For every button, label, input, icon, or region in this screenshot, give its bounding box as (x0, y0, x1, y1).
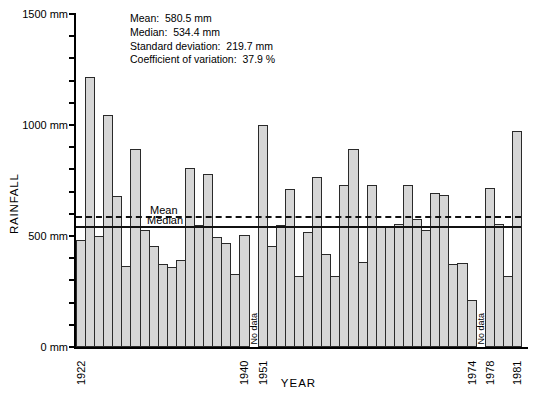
y-axis-tick-label: 0 mm (6, 341, 68, 353)
y-axis-tick (69, 302, 74, 304)
x-axis-label-1951: 1951 (257, 351, 269, 385)
y-axis-tick (69, 80, 74, 82)
no-data-label: No data (249, 313, 259, 345)
y-axis-tick-label: 1500 mm (6, 8, 68, 20)
y-axis-title: RAINFALL (8, 134, 20, 234)
y-axis-tick (69, 213, 74, 215)
y-axis-tick (69, 13, 74, 15)
x-axis-label-1974: 1974 (466, 351, 478, 385)
x-axis-title: YEAR (76, 377, 521, 389)
bar-1981 (512, 131, 522, 347)
y-axis-tick (69, 191, 74, 193)
y-axis-tick (69, 257, 74, 259)
annual-rainfall-bar-chart: Mean: 580.5 mm Median: 534.4 mm Standard… (0, 0, 533, 403)
x-axis-label-1940: 1940 (238, 351, 250, 385)
y-axis-tick (69, 279, 74, 281)
median-line (76, 226, 521, 228)
y-axis-tick (69, 168, 74, 170)
y-axis-tick-label: 500 mm (6, 230, 68, 242)
no-data-label: No data (476, 313, 486, 345)
y-axis-tick (69, 102, 74, 104)
y-axis-tick-label: 1000 mm (6, 119, 68, 131)
plot-area: No dataNo dataMeanMedian (76, 14, 521, 347)
x-axis-line (74, 347, 528, 349)
x-axis-label-1978: 1978 (484, 351, 496, 385)
x-axis-label-1922: 1922 (75, 351, 87, 385)
mean-line (76, 216, 521, 218)
y-axis-tick (69, 346, 74, 348)
y-axis-tick (69, 324, 74, 326)
y-axis-tick (69, 124, 74, 126)
y-axis-tick (69, 146, 74, 148)
y-axis-tick (69, 235, 74, 237)
y-axis-tick (69, 57, 74, 59)
median-line-label: Median (147, 215, 183, 226)
y-axis-tick (69, 35, 74, 37)
x-axis-label-1981: 1981 (511, 351, 523, 385)
